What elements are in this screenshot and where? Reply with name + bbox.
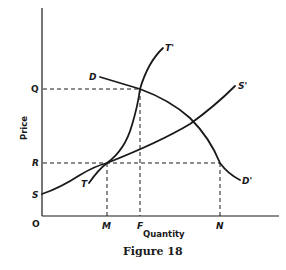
y-axis-label: Price [19, 116, 29, 140]
label-d-prime: D' [242, 176, 252, 186]
label-s-prime: S' [238, 81, 247, 91]
label-d: D [89, 72, 97, 82]
label-t-prime: T' [165, 43, 174, 53]
origin-label: O [32, 219, 40, 229]
tick-s: S [32, 190, 38, 200]
demand-curve [100, 77, 240, 180]
label-t: T [81, 179, 88, 189]
x-axis-label: Quantity [143, 229, 185, 239]
figure-caption: Figure 18 [123, 245, 183, 258]
tick-n: N [216, 221, 224, 231]
figure-diagram: D D' S' T T' Q R S O M F N Quantity Pric… [0, 0, 286, 270]
tick-r: R [32, 158, 39, 168]
tick-m: M [102, 221, 111, 231]
tick-q: Q [31, 84, 39, 94]
